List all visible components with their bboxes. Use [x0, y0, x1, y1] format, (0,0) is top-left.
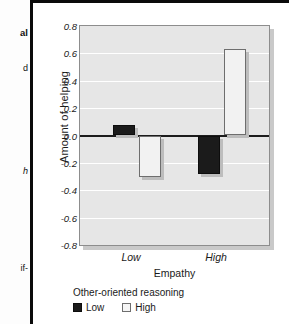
y-axis-tick-label: 0.6 — [33, 48, 77, 59]
bar — [113, 125, 135, 136]
y-axis-tick-label: -0.8 — [33, 240, 77, 251]
plot-area — [79, 25, 270, 246]
x-axis-category-label: High — [205, 251, 227, 263]
y-axis-tick-label: -0.4 — [33, 185, 77, 196]
legend-item: Low — [73, 302, 104, 313]
gridline — [80, 218, 269, 219]
y-axis-tick-label: 0.2 — [33, 103, 77, 114]
legend-label: High — [135, 302, 156, 313]
x-axis-title: Empathy — [79, 267, 270, 279]
y-axis-tick-labels: 0.80.60.40.20.0-0.2-0.4-0.6-0.8 — [33, 25, 77, 246]
gridline — [80, 163, 269, 164]
y-axis-tick-label: 0.4 — [33, 75, 77, 86]
y-axis-tick-label: 0.8 — [33, 21, 77, 32]
legend-swatch-high — [122, 303, 131, 312]
legend-title: Other-oriented reasoning — [73, 287, 184, 298]
legend-swatch-low — [73, 303, 82, 312]
x-axis-category-label: Low — [121, 251, 140, 263]
text-fragment: h — [23, 166, 28, 176]
y-axis-tick-label: -0.6 — [33, 212, 77, 223]
figure-page: aldhif- Amount of helping 0.80.60.40.20.… — [0, 0, 289, 324]
bar — [224, 49, 246, 135]
y-axis-tick-label: 0.0 — [33, 130, 77, 141]
text-fragment: al — [20, 28, 28, 38]
bar — [139, 136, 161, 177]
legend-label: Low — [86, 302, 104, 313]
legend-item: High — [122, 302, 156, 313]
adjacent-column-fragments: aldhif- — [0, 0, 30, 324]
gridline — [80, 190, 269, 191]
text-fragment: if- — [21, 263, 29, 273]
bar-chart-figure: Amount of helping 0.80.60.40.20.0-0.2-0.… — [33, 3, 289, 324]
y-axis-tick-label: -0.2 — [33, 157, 77, 168]
legend: LowHigh — [73, 302, 156, 313]
bar — [198, 136, 220, 174]
text-fragment: d — [23, 63, 28, 73]
